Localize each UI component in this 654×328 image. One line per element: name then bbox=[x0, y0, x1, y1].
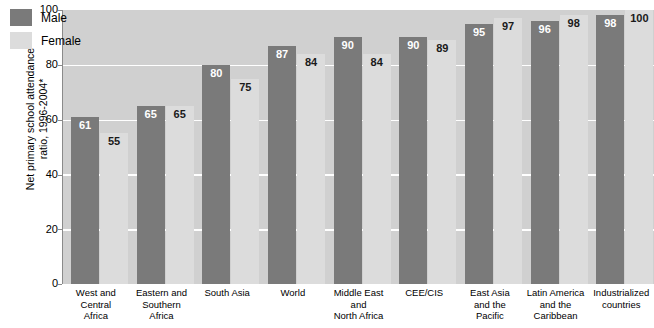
x-axis-category-label: South Asia bbox=[194, 287, 260, 328]
y-tick-mark-0 bbox=[58, 284, 62, 285]
bar-female[interactable]: 84 bbox=[363, 54, 391, 284]
bar-female[interactable]: 75 bbox=[231, 79, 259, 285]
y-tick-mark-80 bbox=[58, 65, 62, 66]
bar-male[interactable]: 95 bbox=[465, 24, 493, 284]
category-label-line: West and bbox=[64, 287, 128, 299]
y-tick-label-20: 20 bbox=[28, 223, 58, 235]
x-axis-category-label: Eastern andSouthernAfrica bbox=[129, 287, 195, 328]
legend-swatch-male-icon bbox=[10, 9, 32, 26]
y-tick-label-0: 0 bbox=[28, 277, 58, 289]
y-tick-label-80: 80 bbox=[28, 58, 58, 70]
x-axis-category-label: East Asiaand thePacific bbox=[457, 287, 523, 328]
y-tick-label-60: 60 bbox=[28, 113, 58, 125]
legend-item-male[interactable]: Male bbox=[10, 6, 81, 29]
x-axis-category-label: Latin Americaand theCaribbean bbox=[523, 287, 589, 328]
category-label-line: CEE/CIS bbox=[392, 287, 456, 299]
bar-female[interactable]: 65 bbox=[166, 106, 194, 284]
category-label-line: countries bbox=[589, 299, 653, 311]
category-label-line: and the bbox=[458, 299, 522, 311]
category-label-line: Latin America bbox=[524, 287, 588, 299]
y-tick-label-40: 40 bbox=[28, 168, 58, 180]
x-axis-category-label: Industrializedcountries bbox=[588, 287, 654, 328]
bar-male[interactable]: 61 bbox=[71, 117, 99, 284]
legend: Male Female bbox=[10, 6, 81, 52]
bar-value-label: 75 bbox=[231, 81, 259, 94]
bar-groups: 6155656580758784908490899597969898100 bbox=[63, 10, 654, 284]
category-label-line: Southern bbox=[130, 299, 194, 311]
bar-value-label: 55 bbox=[100, 135, 128, 148]
bar-male[interactable]: 90 bbox=[399, 37, 427, 284]
bar-male[interactable]: 90 bbox=[334, 37, 362, 284]
bar-group: 98100 bbox=[588, 10, 654, 284]
chart-figure: Net primary school attendance ratio, 199… bbox=[0, 0, 654, 328]
legend-item-female[interactable]: Female bbox=[10, 29, 81, 52]
bar-male[interactable]: 65 bbox=[137, 106, 165, 284]
category-label-line: Middle East and bbox=[327, 287, 391, 310]
bar-value-label: 90 bbox=[399, 39, 427, 52]
category-label-line: World bbox=[261, 287, 325, 299]
bar-value-label: 84 bbox=[363, 56, 391, 69]
plot-area: 6155656580758784908490899597969898100 bbox=[63, 10, 654, 284]
legend-swatch-female-icon bbox=[10, 32, 32, 49]
bar-female[interactable]: 84 bbox=[297, 54, 325, 284]
category-label-line: Pacific bbox=[458, 310, 522, 322]
bar-value-label: 90 bbox=[334, 39, 362, 52]
y-tick-mark-60 bbox=[58, 120, 62, 121]
bar-value-label: 65 bbox=[137, 108, 165, 121]
bar-male[interactable]: 80 bbox=[202, 65, 230, 284]
bar-group: 9084 bbox=[326, 10, 392, 284]
bar-female[interactable]: 97 bbox=[494, 18, 522, 284]
bar-male[interactable]: 98 bbox=[596, 15, 624, 284]
bar-male[interactable]: 96 bbox=[531, 21, 559, 284]
y-tick-mark-40 bbox=[58, 175, 62, 176]
bar-group: 8075 bbox=[194, 10, 260, 284]
x-axis-category-label: Middle East andNorth Africa bbox=[326, 287, 392, 328]
bar-value-label: 80 bbox=[202, 67, 230, 80]
bar-value-label: 95 bbox=[465, 26, 493, 39]
legend-label-female: Female bbox=[41, 34, 81, 48]
x-axis-category-label: CEE/CIS bbox=[391, 287, 457, 328]
category-label-line: Africa bbox=[64, 310, 128, 322]
category-label-line: South Asia bbox=[195, 287, 259, 299]
bar-value-label: 65 bbox=[166, 108, 194, 121]
category-label-line: Central bbox=[64, 299, 128, 311]
bar-female[interactable]: 98 bbox=[560, 15, 588, 284]
legend-label-male: Male bbox=[41, 11, 67, 25]
bar-value-label: 84 bbox=[297, 56, 325, 69]
x-axis-category-label: World bbox=[260, 287, 326, 328]
bar-group: 9698 bbox=[523, 10, 589, 284]
x-axis-category-label: West andCentralAfrica bbox=[63, 287, 129, 328]
bar-group: 6565 bbox=[129, 10, 195, 284]
bar-female[interactable]: 100 bbox=[625, 10, 653, 284]
bar-value-label: 97 bbox=[494, 20, 522, 33]
bar-value-label: 98 bbox=[596, 17, 624, 30]
category-label-line: East Asia bbox=[458, 287, 522, 299]
bar-group: 8784 bbox=[260, 10, 326, 284]
bar-female[interactable]: 89 bbox=[428, 40, 456, 284]
bar-group: 9089 bbox=[391, 10, 457, 284]
bar-male[interactable]: 87 bbox=[268, 46, 296, 284]
bar-value-label: 89 bbox=[428, 42, 456, 55]
bar-value-label: 100 bbox=[625, 12, 653, 25]
category-label-line: and the bbox=[524, 299, 588, 311]
bar-value-label: 98 bbox=[560, 17, 588, 30]
y-tick-mark-20 bbox=[58, 229, 62, 230]
bar-value-label: 87 bbox=[268, 48, 296, 61]
bar-value-label: 96 bbox=[531, 23, 559, 36]
bar-female[interactable]: 55 bbox=[100, 133, 128, 284]
bar-value-label: 61 bbox=[71, 119, 99, 132]
bar-group: 9597 bbox=[457, 10, 523, 284]
category-label-line: Industrialized bbox=[589, 287, 653, 299]
category-label-line: Eastern and bbox=[130, 287, 194, 299]
x-axis-category-labels: West andCentralAfricaEastern andSouthern… bbox=[63, 287, 654, 328]
category-label-line: Caribbean bbox=[524, 310, 588, 322]
category-label-line: Africa bbox=[130, 310, 194, 322]
category-label-line: North Africa bbox=[327, 310, 391, 322]
